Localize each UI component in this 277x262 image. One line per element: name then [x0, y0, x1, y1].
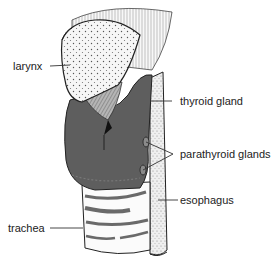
trachea	[82, 182, 150, 254]
thyroid-gland-label: thyroid gland	[180, 95, 243, 107]
trachea-label: trachea	[8, 222, 45, 234]
larynx-label: larynx	[13, 60, 42, 72]
larynx	[62, 20, 141, 102]
esophagus	[150, 72, 167, 256]
esophagus-label: esophagus	[180, 194, 234, 206]
parathyroid-glands-label: parathyroid glands	[180, 148, 271, 160]
thyroid-anatomy-diagram: larynx thyroid gland parathyroid glands …	[0, 0, 277, 262]
